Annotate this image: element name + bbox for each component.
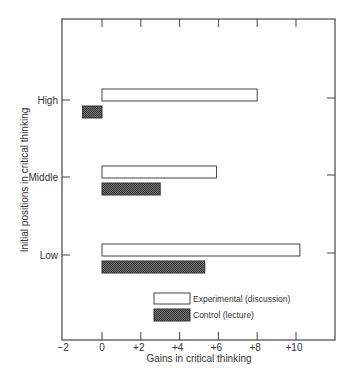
category-label-high: High bbox=[37, 95, 58, 106]
bar-control-high bbox=[83, 106, 102, 118]
x-tick-label: +10 bbox=[286, 342, 303, 353]
category-label-middle: Middle bbox=[29, 172, 59, 183]
category-label-low: Low bbox=[40, 250, 59, 261]
x-tick-label: 0 bbox=[99, 342, 105, 353]
legend-swatch-experimental bbox=[154, 293, 190, 304]
y-category-labels: HighMiddleLow bbox=[29, 95, 59, 261]
bar-chart: −20+2+4+6+8+10 HighMiddleLow Gains in cr… bbox=[0, 0, 352, 380]
x-axis-label: Gains in critical thinking bbox=[146, 353, 251, 364]
x-tick-label: +2 bbox=[133, 342, 145, 353]
x-axis-ticks bbox=[62, 19, 335, 340]
legend-label-experimental: Experimental (discussion) bbox=[193, 294, 290, 304]
x-tick-label: +8 bbox=[249, 342, 261, 353]
plot-frame bbox=[62, 19, 335, 340]
bar-experimental-low bbox=[102, 244, 300, 256]
x-tick-label: −2 bbox=[57, 342, 69, 353]
legend-label-control: Control (lecture) bbox=[193, 310, 254, 320]
bar-experimental-middle bbox=[102, 166, 216, 178]
bar-control-middle bbox=[102, 183, 160, 195]
x-tick-labels: −20+2+4+6+8+10 bbox=[57, 342, 302, 353]
legend: Experimental (discussion) Control (lectu… bbox=[154, 293, 290, 321]
bar-control-low bbox=[102, 261, 205, 273]
legend-swatch-control bbox=[154, 309, 190, 321]
x-tick-label: +4 bbox=[172, 342, 184, 353]
y-axis-label: Initial positions in critical thinking bbox=[19, 108, 30, 253]
bars bbox=[83, 89, 300, 273]
bar-experimental-high bbox=[102, 89, 257, 101]
x-tick-label: +6 bbox=[211, 342, 223, 353]
